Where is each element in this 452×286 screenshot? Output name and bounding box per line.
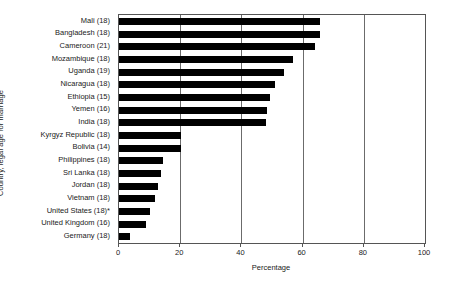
bar-row — [119, 192, 425, 205]
bar — [119, 233, 130, 240]
x-axis-tick-label: 20 — [175, 248, 183, 257]
y-axis-tick-label: Germany (18) — [18, 229, 114, 242]
bar-row — [119, 104, 425, 117]
y-axis-tick-label: Mali (18) — [18, 14, 114, 27]
x-axis-tick-label: 60 — [297, 248, 305, 257]
bars-container — [119, 15, 425, 243]
bar — [119, 221, 146, 228]
bar-row — [119, 129, 425, 142]
bar-row — [119, 15, 425, 28]
bar-row — [119, 53, 425, 66]
bar — [119, 208, 150, 215]
bar-row — [119, 66, 425, 79]
y-axis-category-labels: Mali (18) Bangladesh (18) Cameroon (21) … — [18, 14, 114, 242]
x-axis-tick-labels: 020406080100 — [118, 248, 424, 260]
y-axis-tick-label: United Kingdom (16) — [18, 217, 114, 230]
y-axis-tick-label: Nicaragua (18) — [18, 77, 114, 90]
bar — [119, 31, 320, 38]
y-axis-tick-label: Bangladesh (18) — [18, 27, 114, 40]
bar-chart: Country, legal age for marriage Mali (18… — [0, 0, 452, 286]
bar-row — [119, 142, 425, 155]
x-axis-tick-mark — [240, 243, 241, 247]
x-axis-tick-mark — [179, 243, 180, 247]
bar — [119, 56, 293, 63]
bar — [119, 132, 181, 139]
bar — [119, 157, 163, 164]
y-axis-tick-label: Bolivia (14) — [18, 141, 114, 154]
bar — [119, 69, 284, 76]
bar-row — [119, 40, 425, 53]
y-axis-tick-label: United States (18)* — [18, 204, 114, 217]
y-axis-tick-label: Yemen (16) — [18, 103, 114, 116]
y-axis-tick-label: Sri Lanka (18) — [18, 166, 114, 179]
x-axis-tick-label: 0 — [116, 248, 120, 257]
x-axis-tick-label: 40 — [236, 248, 244, 257]
bar — [119, 119, 266, 126]
bar — [119, 170, 161, 177]
bar-row — [119, 180, 425, 193]
x-axis-tick-label: 80 — [359, 248, 367, 257]
bar — [119, 43, 315, 50]
x-axis-tick-mark — [363, 243, 364, 247]
y-axis-tick-label: India (18) — [18, 115, 114, 128]
bar-row — [119, 28, 425, 41]
y-axis-tick-label: Uganda (19) — [18, 65, 114, 78]
bar-row — [119, 205, 425, 218]
x-axis-tick-mark — [424, 243, 425, 247]
bar-row — [119, 154, 425, 167]
y-axis-tick-label: Mozambique (18) — [18, 52, 114, 65]
bar — [119, 18, 320, 25]
bar-row — [119, 167, 425, 180]
bar — [119, 195, 155, 202]
y-axis-tick-label: Ethiopia (15) — [18, 90, 114, 103]
plot-area — [118, 14, 426, 244]
y-axis-tick-label: Kyrgyz Republic (18) — [18, 128, 114, 141]
x-axis-tick-mark — [302, 243, 303, 247]
x-axis-tick-mark — [118, 243, 119, 247]
x-axis-tick-label: 100 — [418, 248, 431, 257]
bar-row — [119, 218, 425, 231]
bar-row — [119, 230, 425, 243]
y-axis-tick-label: Jordan (18) — [18, 179, 114, 192]
bar-row — [119, 91, 425, 104]
y-axis-tick-label: Vietnam (18) — [18, 191, 114, 204]
bar-row — [119, 78, 425, 91]
bar-row — [119, 116, 425, 129]
y-axis-tick-label: Cameroon (21) — [18, 39, 114, 52]
bar — [119, 183, 158, 190]
bar — [119, 107, 267, 114]
bar — [119, 94, 270, 101]
bar — [119, 145, 181, 152]
bar — [119, 81, 275, 88]
x-axis-title: Percentage — [118, 263, 424, 272]
y-axis-tick-label: Philippines (18) — [18, 153, 114, 166]
